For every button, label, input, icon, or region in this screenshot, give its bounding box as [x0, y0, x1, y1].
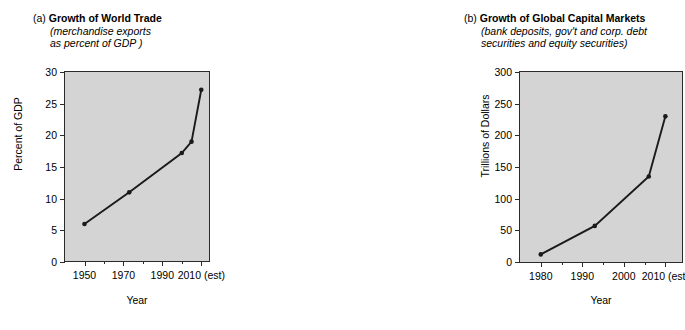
data-point-marker [82, 222, 87, 227]
panel-a-xtick-1990: 1990 [151, 269, 174, 281]
panel-a-ytick-10: 10 [45, 193, 57, 205]
panel-a-index: (a) [33, 12, 46, 24]
panel-foreign-born-residents: (c) Foreign Born Residents in Selected C… [458, 0, 685, 330]
panel-a-xtick-2010: 2010 (est) [178, 269, 225, 281]
data-line [84, 90, 201, 224]
data-point-marker [199, 87, 204, 92]
panel-a-x-axis-title: Year [126, 294, 147, 306]
panel-a-subtitle-line1: (merchandise exports [50, 25, 223, 38]
panel-a-heading: Growth of World Trade [49, 12, 162, 24]
data-point-marker [189, 139, 194, 144]
panel-a-subtitle-line2: as percent of GDP ) [50, 37, 223, 50]
panel-a-ytick-15: 15 [45, 161, 57, 173]
panel-a-plot-area: 0 5 10 15 20 25 30 1950 1970 1990 2010 (… [64, 71, 210, 262]
panel-a-xtick-1950: 1950 [73, 269, 96, 281]
panel-growth-of-world-trade: (a) Growth of World Trade (merchandise e… [0, 0, 228, 330]
panel-a-xtick-1970: 1970 [112, 269, 135, 281]
panel-a-y-axis-title: Percent of GDP [12, 74, 24, 194]
panel-a-ytick-25: 25 [45, 98, 57, 110]
panel-a-ytick-5: 5 [51, 224, 57, 236]
panel-a-caption: (a) Growth of World Trade (merchandise e… [33, 12, 223, 50]
data-point-marker [127, 190, 132, 195]
data-point-marker [180, 151, 185, 156]
panel-a-ytick-20: 20 [45, 129, 57, 141]
panel-a-line-series [65, 72, 211, 262]
panel-a-ytick-0: 0 [51, 256, 57, 268]
panel-a-ytick-30: 30 [45, 66, 57, 78]
panel-growth-of-global-capital-markets: (b) Growth of Global Capital Markets (ba… [228, 0, 458, 330]
